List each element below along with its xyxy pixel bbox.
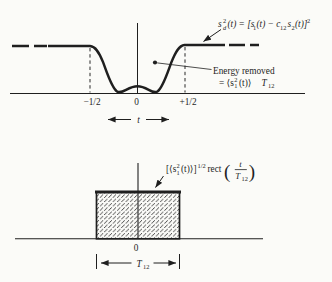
energy-note-close: (t)⟩	[239, 78, 251, 89]
rect-formula-word: rect	[208, 164, 222, 174]
formula-sub-d: d	[223, 24, 227, 31]
difference-signal-curve	[48, 45, 225, 92]
formula-arrow	[204, 30, 222, 42]
formula-seg3: (t) − c	[257, 19, 282, 30]
rect-formula-sub: 1	[177, 169, 180, 176]
rect-formula-open: [⟨s	[166, 164, 177, 174]
tick-zero: 0	[134, 97, 139, 107]
rect-pulse	[97, 192, 180, 239]
formula-s: s	[218, 19, 222, 29]
sd-formula-label: s 2 d (t) = [s 1 (t) − c 12 s 2 (t)] 2	[218, 17, 310, 31]
energy-note-T-sub: 12	[268, 82, 274, 89]
energy-note-sub: 1	[234, 82, 237, 89]
formula-sup2: 2	[307, 17, 310, 24]
top-plot: s 2 d (t) = [s 1 (t) − c 12 s 2 (t)] 2 E…	[10, 17, 310, 125]
formula-sub12: 12	[280, 24, 286, 31]
energy-note-leader	[157, 63, 211, 70]
figure-canvas: s 2 d (t) = [s 1 (t) − c 12 s 2 (t)] 2 E…	[0, 0, 332, 282]
rect-formula-arrow	[156, 176, 164, 188]
rect-formula-label: [⟨s 2 1 (t)⟩] 1/2 rect ( t T 12 )	[166, 159, 255, 184]
rect-formula-paren-right: )	[249, 161, 255, 183]
rect-formula-frac-den: T	[235, 171, 241, 181]
energy-note-eq: = ⟨s	[219, 78, 234, 88]
t-axis-label: t	[137, 115, 140, 125]
energy-note-line1: Energy removed	[213, 66, 275, 76]
rect-formula-frac-den-sub: 12	[242, 175, 248, 182]
width-label-T: T	[137, 259, 143, 269]
energy-note-T: T	[262, 78, 268, 88]
width-label-sub: 12	[143, 263, 149, 270]
tick-minus-half: −1/2	[83, 97, 100, 107]
rect-formula-paren-left: (	[224, 161, 230, 183]
formula-seg4: (t)]	[295, 19, 308, 30]
rect-formula-exp: 1/2	[198, 162, 206, 169]
zero-tick-label: 0	[134, 243, 139, 253]
formula-seg2: (t) = [s	[228, 19, 255, 30]
width-dimension: T 12	[97, 254, 180, 270]
energy-region-dot	[153, 60, 157, 64]
bottom-plot: [⟨s 2 1 (t)⟩] 1/2 rect ( t T 12 ) 0 T 12	[15, 159, 263, 270]
rect-formula-close: (t)⟩]	[181, 164, 197, 175]
rect-formula-frac-num: t	[239, 159, 242, 169]
energy-note: Energy removed = ⟨s 2 1 (t)⟩ T 12	[213, 66, 275, 90]
tick-plus-half: +1/2	[179, 97, 196, 107]
